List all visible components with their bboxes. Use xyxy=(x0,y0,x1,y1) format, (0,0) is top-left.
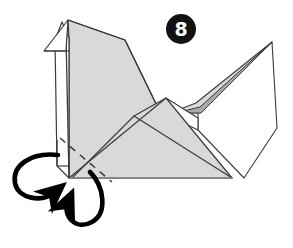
step-number-badge: 8 xyxy=(166,14,196,44)
origami-diagram: 8 xyxy=(0,0,293,248)
origami-figure-illustration xyxy=(0,0,293,248)
inside-reverse-fold-arrow-left xyxy=(15,155,58,199)
beak-triangle xyxy=(44,20,68,51)
inside-reverse-fold-arrow-lower xyxy=(67,172,103,225)
step-number-label: 8 xyxy=(174,20,187,39)
paper-model xyxy=(44,20,277,178)
